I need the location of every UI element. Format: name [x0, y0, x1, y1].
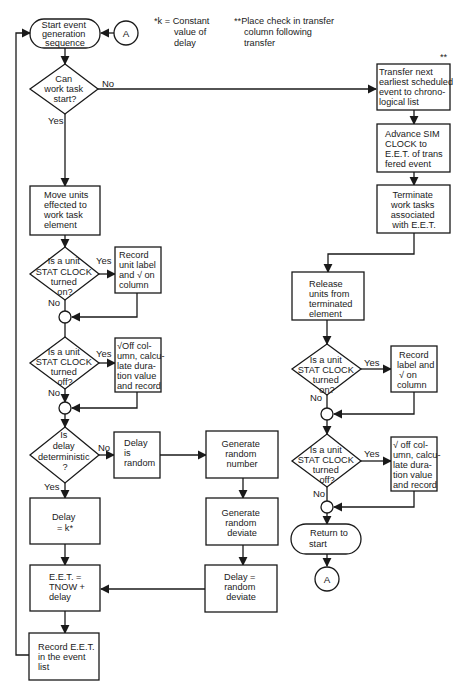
arrow-right-calc-to-junction [334, 491, 414, 507]
no-label: No [310, 392, 322, 403]
flowchart: Start event generation sequence A *k = C… [0, 0, 464, 692]
arrow-terminate-to-release [328, 233, 414, 272]
no-label: No [48, 297, 60, 308]
terminate-text: Terminate work tasks associated with E.E… [390, 190, 437, 230]
right-junction-2 [321, 501, 333, 513]
junction-1 [59, 311, 71, 323]
gen-number-text: Generate random number [222, 439, 263, 469]
no-label: No [313, 488, 325, 499]
arrow-right-record-to-junction [334, 392, 414, 414]
yes-label: Yes [44, 481, 60, 492]
junction-2 [59, 402, 71, 414]
arrow-record-to-junction [72, 293, 137, 317]
gen-deviate-text: Generate random deviate [222, 508, 263, 538]
yes-label: Yes [364, 448, 380, 459]
k-note: *k = Constant value of delay [154, 16, 212, 48]
connector-a-bottom-label: A [324, 574, 331, 585]
yes-label: Yes [48, 115, 64, 126]
no-label: No [48, 387, 60, 398]
delay-deviate-text: Delay = random deviate [224, 572, 258, 602]
yes-label: Yes [364, 357, 380, 368]
transfer-mark: ** [440, 52, 448, 62]
loop-back-arrow [16, 33, 30, 655]
no-label: No [102, 78, 114, 89]
connector-a-top-label: A [123, 28, 130, 39]
yes-label: Yes [96, 255, 112, 266]
right-junction-1 [321, 408, 333, 420]
transfer-note: **Place check in transfer column followi… [234, 16, 337, 48]
arrow-calc-to-junction [72, 392, 137, 408]
yes-label: Yes [96, 348, 112, 359]
no-label: No [98, 442, 110, 453]
start-text: Start event generation sequence [42, 20, 89, 48]
